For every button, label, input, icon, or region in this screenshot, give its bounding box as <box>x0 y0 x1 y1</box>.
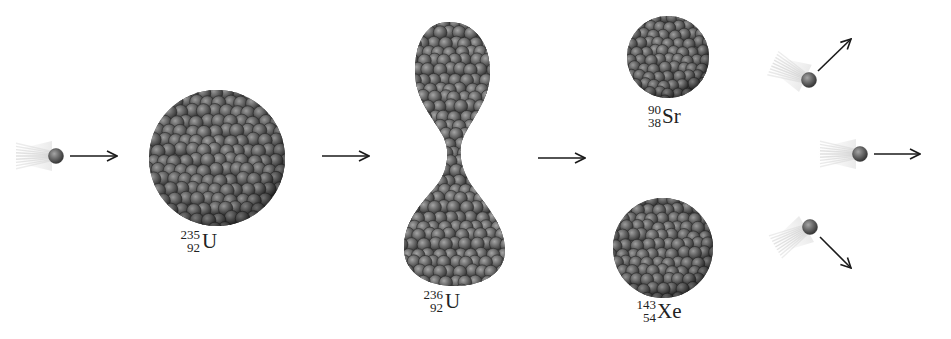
u236-nucleus <box>389 8 517 299</box>
u236-symbol: U <box>445 291 460 312</box>
sr90-nucleus <box>620 11 715 108</box>
u235-label: 235 92 U <box>178 228 238 258</box>
neutron-incoming <box>14 141 52 171</box>
u236-label: 236 92 U <box>421 288 481 318</box>
neutron-icon <box>49 149 64 164</box>
sr90-atomic-number: 38 <box>648 116 661 129</box>
arrow-neutron-down <box>820 237 851 268</box>
sr90-label: 90 38 Sr <box>642 103 702 133</box>
xe143-label: 143 54 Xe <box>634 298 704 328</box>
u236-atomic-number: 92 <box>430 301 443 314</box>
neutron-out-right <box>818 139 856 169</box>
xe143-atomic-number: 54 <box>643 311 656 324</box>
u235-atomic-number: 92 <box>187 241 200 254</box>
sr90-symbol: Sr <box>662 106 681 127</box>
neutron-icon <box>853 147 868 162</box>
arrow-neutron-up <box>818 39 851 71</box>
u235-nucleus <box>140 84 295 237</box>
u235-symbol: U <box>202 231 217 252</box>
neutron-icon <box>802 73 817 88</box>
xe143-nucleus <box>604 192 722 306</box>
neutron-icon <box>803 220 818 235</box>
xe143-symbol: Xe <box>657 301 682 322</box>
